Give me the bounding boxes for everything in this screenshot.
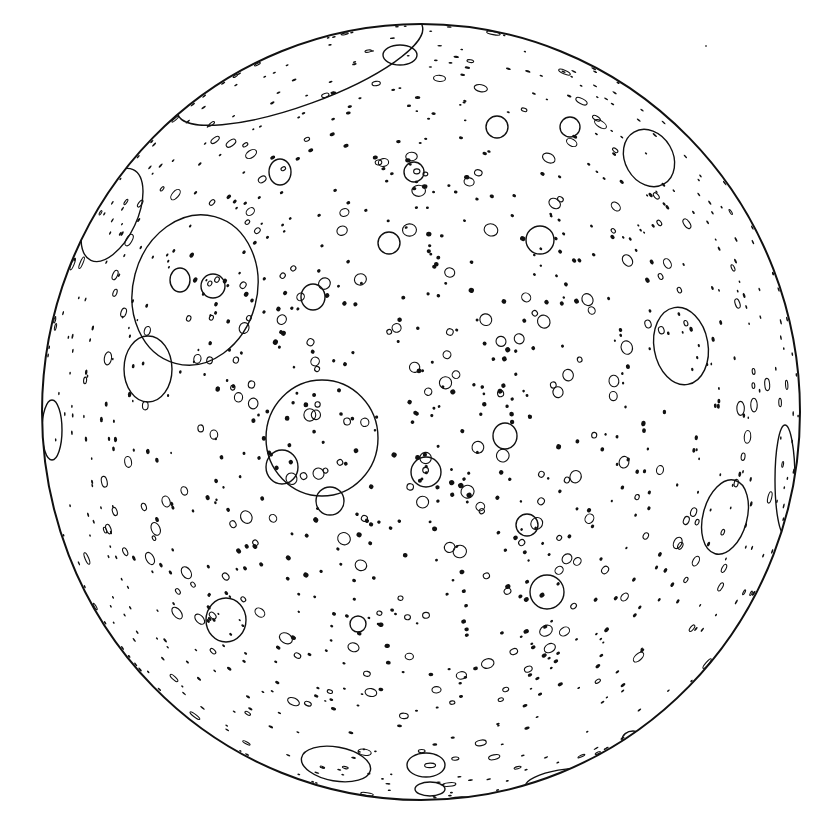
small-crater-ring (663, 410, 666, 415)
stray-dot (705, 45, 707, 47)
crater-map-figure (0, 0, 830, 839)
small-crater-ring (419, 142, 422, 144)
small-crater-dot (265, 409, 269, 413)
sphere-drawing (0, 0, 830, 839)
background (0, 0, 830, 839)
